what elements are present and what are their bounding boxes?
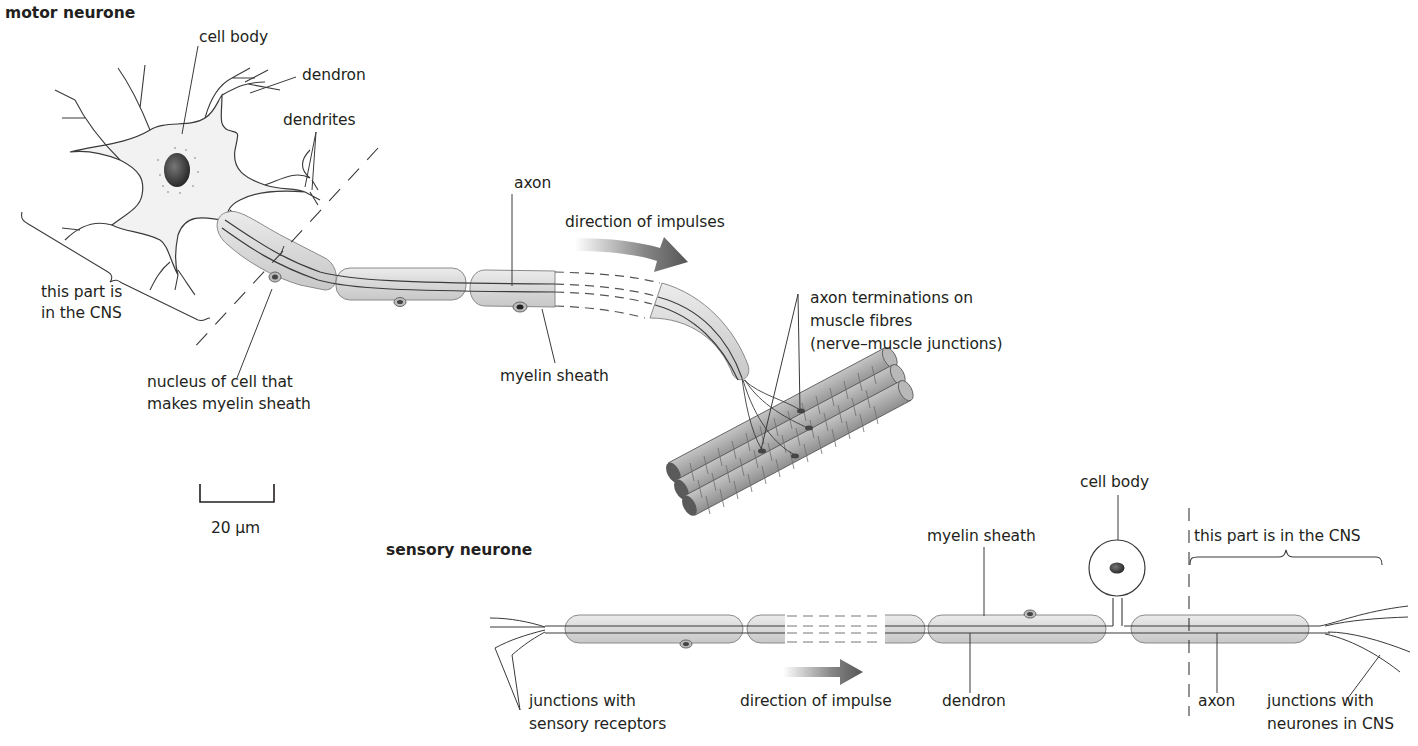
motor-nucleus xyxy=(164,153,190,187)
label-cell-body: cell body xyxy=(199,28,268,47)
muscle-fibres xyxy=(663,345,916,518)
label-terminations-line2: muscle fibres xyxy=(810,312,912,331)
label-terminations-line1: axon terminations on xyxy=(810,289,973,308)
motor-myelin-segment-2 xyxy=(336,268,466,300)
label-receptors-line1: junctions with xyxy=(529,692,636,711)
sensory-leader-lines xyxy=(970,495,1380,698)
motor-neurone xyxy=(22,46,917,518)
sensory-myelin-segment-4 xyxy=(1131,615,1309,643)
sensory-direction-arrow xyxy=(783,659,863,685)
label-dendron: dendron xyxy=(302,66,366,85)
sensory-neurone-title: sensory neurone xyxy=(386,541,532,559)
sensory-myelin-segment-1 xyxy=(565,615,743,643)
label-sensory-dendron: dendron xyxy=(942,692,1006,711)
label-cns-junctions-line1: junctions with xyxy=(1267,692,1374,711)
label-cns-line2: in the CNS xyxy=(41,304,122,323)
label-axon: axon xyxy=(514,174,551,193)
label-sensory-cns: this part is in the CNS xyxy=(1194,527,1361,546)
label-direction-of-impulse: direction of impulse xyxy=(740,692,892,711)
label-sensory-myelin: myelin sheath xyxy=(927,527,1036,546)
label-receptors-line2: sensory receptors xyxy=(529,715,666,734)
motor-neurone-title: motor neurone xyxy=(5,4,135,22)
motor-myelin-segment-4 xyxy=(650,283,749,380)
label-nucleus-line1: nucleus of cell that xyxy=(147,373,293,392)
motor-axon-break xyxy=(555,272,660,318)
label-sensory-cell-body: cell body xyxy=(1080,473,1149,492)
label-direction-of-impulses: direction of impulses xyxy=(565,213,725,232)
sensory-myelin-segment-3 xyxy=(928,615,1106,643)
label-dendrites: dendrites xyxy=(283,111,356,130)
sensory-cns-brace xyxy=(1190,550,1382,565)
sensory-cns-endings xyxy=(1320,606,1410,672)
label-myelin-sheath: myelin sheath xyxy=(500,367,609,386)
label-sensory-axon: axon xyxy=(1198,692,1235,711)
sensory-nucleus xyxy=(1110,563,1125,574)
motor-direction-arrow xyxy=(575,237,688,272)
label-terminations-line3: (nerve–muscle junctions) xyxy=(810,335,1002,354)
scale-bar-label: 20 μm xyxy=(211,519,260,538)
label-cns-junctions-line2: neurones in CNS xyxy=(1267,715,1394,734)
label-nucleus-line2: makes myelin sheath xyxy=(147,395,311,414)
label-cns-line1: this part is xyxy=(41,283,122,302)
scale-bar xyxy=(200,484,274,502)
